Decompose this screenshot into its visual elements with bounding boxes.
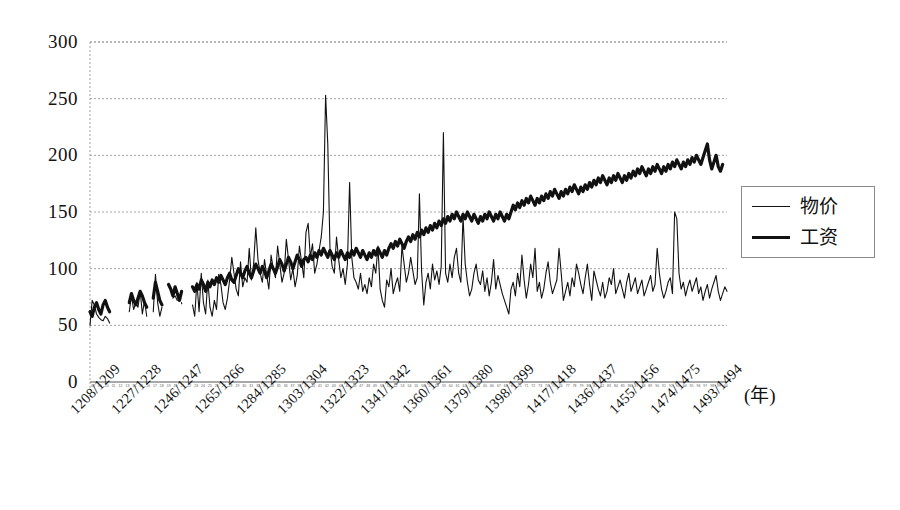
axis-micro-label: 67: [497, 384, 501, 388]
y-axis-tick-200: 200: [20, 145, 78, 164]
legend-label-wages: 工资: [800, 228, 838, 247]
axis-micro-label: 20: [174, 384, 178, 388]
axis-micro-label: 75: [552, 384, 556, 388]
axis-micro-label: 80: [586, 384, 590, 388]
axis-micro-label: 43: [332, 384, 336, 388]
y-axis-tick-150: 150: [20, 202, 78, 221]
axis-micro-label: 21: [180, 384, 184, 388]
axis-micro-label: 33: [263, 384, 267, 388]
axis-micro-label: 48: [366, 384, 370, 388]
axis-micro-label: 10: [105, 384, 109, 388]
axis-micro-label: 93: [676, 384, 680, 388]
legend-swatch-wages: [751, 236, 791, 240]
legend-swatch-prices: [751, 206, 791, 208]
axis-micro-label: 15: [139, 384, 143, 388]
axis-micro-label: 28: [229, 384, 233, 388]
axis-micro-label: 86: [628, 384, 632, 388]
axis-micro-label: 09: [98, 384, 102, 388]
legend-label-prices: 物价: [800, 197, 838, 216]
axis-micro-label: 87: [635, 384, 639, 388]
axis-micro-label: 31: [249, 384, 253, 388]
axis-micro-label: 26: [215, 384, 219, 388]
axis-micro-label: 85: [621, 384, 625, 388]
axis-micro-label: 47: [359, 384, 363, 388]
axis-micro-label: 89: [648, 384, 652, 388]
axis-micro-label: 96: [696, 384, 700, 388]
axis-micro-label: 25: [208, 384, 212, 388]
axis-micro-label: 50: [380, 384, 384, 388]
axis-micro-label: 64: [476, 384, 480, 388]
axis-micro-label: 55: [414, 384, 418, 388]
axis-micro-label: 81: [593, 384, 597, 388]
axis-micro-label: 58: [435, 384, 439, 388]
axis-micro-label: 92: [669, 384, 673, 388]
axis-micro-label: 90: [655, 384, 659, 388]
axis-micro-label: 79: [580, 384, 584, 388]
axis-micro-label: 69: [511, 384, 515, 388]
axis-micro-label: 56: [421, 384, 425, 388]
axis-micro-label: 84: [614, 384, 618, 388]
axis-micro-label: 45: [346, 384, 350, 388]
axis-micro-label: 41: [318, 384, 322, 388]
axis-micro-label: 19: [167, 384, 171, 388]
axis-micro-label: 72: [531, 384, 535, 388]
axis-micro-label: 59: [442, 384, 446, 388]
axis-micro-label: 51: [387, 384, 391, 388]
axis-micro-label: 52: [394, 384, 398, 388]
legend-item-prices: 物价: [751, 191, 874, 222]
axis-micro-label: 27: [222, 384, 226, 388]
x-axis-unit-label: (年): [744, 386, 776, 406]
axis-micro-label: 29: [235, 384, 239, 388]
axis-micro-label: 39: [304, 384, 308, 388]
legend-item-wages: 工资: [751, 222, 874, 253]
axis-micro-label: 88: [641, 384, 645, 388]
axis-micro-label: 97: [703, 384, 707, 388]
axis-micro-label: 74: [545, 384, 549, 388]
axis-micro-label: 57: [428, 384, 432, 388]
chart-legend: 物价 工资: [741, 186, 875, 258]
axis-micro-label: 76: [559, 384, 563, 388]
axis-micro-label: 77: [566, 384, 570, 388]
axis-micro-label: 16: [146, 384, 150, 388]
axis-micro-label: 66: [490, 384, 494, 388]
axis-micro-label: 82: [600, 384, 604, 388]
axis-micro-label: 22: [187, 384, 191, 388]
axis-micro-label: 32: [256, 384, 260, 388]
y-axis-tick-300: 300: [20, 32, 78, 51]
y-axis-tick-50: 50: [20, 315, 78, 334]
axis-micro-label: 78: [573, 384, 577, 388]
axis-micro-label: 94: [683, 384, 687, 388]
axis-micro-label: 40: [311, 384, 315, 388]
axis-micro-label: 98: [710, 384, 714, 388]
y-axis-tick-250: 250: [20, 89, 78, 108]
axis-micro-label: 12: [119, 384, 123, 388]
axis-micro-label: 68: [504, 384, 508, 388]
axis-micro-label: 60: [449, 384, 453, 388]
axis-micro-label: 08: [91, 384, 95, 388]
axis-micro-label: 63: [469, 384, 473, 388]
axis-micro-label: 99: [717, 384, 721, 388]
axis-micro-label: 46: [352, 384, 356, 388]
axis-micro-label: 38: [297, 384, 301, 388]
y-axis-tick-0: 0: [20, 372, 78, 391]
axis-micro-label: 70: [518, 384, 522, 388]
axis-micro-label: 18: [160, 384, 164, 388]
axis-micro-label: 37: [291, 384, 295, 388]
axis-micro-label: 14: [132, 384, 136, 388]
axis-micro-label: 36: [284, 384, 288, 388]
axis-micro-label: 83: [607, 384, 611, 388]
axis-micro-label: 49: [373, 384, 377, 388]
axis-micro-label: 42: [325, 384, 329, 388]
axis-micro-label: 17: [153, 384, 157, 388]
axis-micro-label: 53: [401, 384, 405, 388]
y-axis-tick-100: 100: [20, 259, 78, 278]
axis-micro-label: 62: [463, 384, 467, 388]
axis-micro-label: 95: [690, 384, 694, 388]
axis-micro-label: 23: [194, 384, 198, 388]
axis-micro-label: 30: [242, 384, 246, 388]
axis-micro-label: 13: [125, 384, 129, 388]
axis-micro-label: 11: [112, 384, 116, 388]
axis-micro-label: 24: [201, 384, 205, 388]
axis-micro-label: 61: [456, 384, 460, 388]
axis-micro-label: 34: [270, 384, 274, 388]
